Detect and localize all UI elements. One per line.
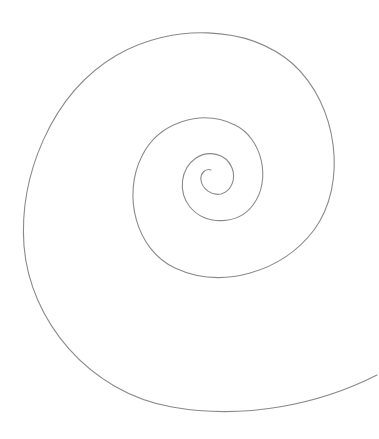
spiral-canvas [0, 0, 379, 439]
spiral-curve [23, 33, 377, 412]
